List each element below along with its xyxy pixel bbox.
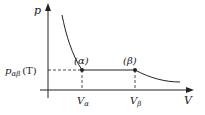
pressure-label-sub: αβ	[11, 70, 20, 78]
axes	[40, 3, 194, 98]
v-alpha-sub: α	[84, 100, 89, 108]
v-beta-label: Vβ	[130, 95, 141, 108]
v-alpha-label: Vα	[77, 95, 89, 108]
x-axis-label: V	[184, 94, 193, 107]
point-beta	[133, 68, 137, 72]
pv-diagram: p V pαβ(T) (α) (β) Vα Vβ	[0, 0, 205, 115]
y-axis-arrow-icon	[45, 3, 51, 11]
point-alpha	[80, 68, 84, 72]
pressure-label-arg: (T)	[22, 65, 37, 76]
point-beta-label: (β)	[123, 55, 137, 66]
pressure-level-label: pαβ(T)	[5, 65, 37, 78]
y-axis-label: p	[34, 4, 41, 17]
v-beta-sub: β	[136, 100, 141, 108]
gas-branch-curve	[135, 70, 180, 82]
x-axis-arrow-icon	[186, 87, 194, 93]
point-alpha-label: (α)	[74, 55, 89, 66]
